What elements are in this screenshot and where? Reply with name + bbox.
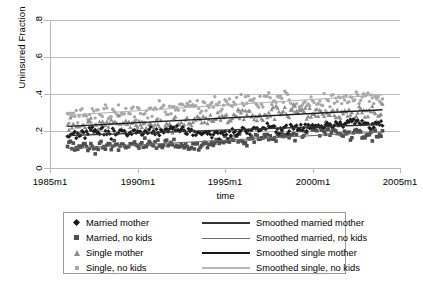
legend-label: Married, no kids [86,231,152,245]
diamond-marker-icon [70,216,86,230]
legend-line-label: Smoothed single, no kids [256,261,360,275]
chart-figure: Uninsured Fraction .8 .6 .4 .2 0 1985m1 … [0,0,423,293]
legend-label: Single mother [86,246,143,260]
legend-row-single-no-kids: Single, no kids Smoothed single, no kids [64,261,347,275]
x-tick-mark [138,168,139,173]
plot-area [50,20,400,168]
x-axis-title: time [50,190,401,201]
scatter-and-trend-layer [50,20,400,168]
triangle-marker-icon [70,246,86,260]
x-tick-label-2000: 2000m1 [281,176,345,187]
legend-label: Married mother [86,216,149,230]
legend-line-swatch [202,267,250,269]
dot-marker-icon [70,261,86,275]
legend-line-swatch [202,238,250,239]
x-tick-mark [400,168,401,173]
legend-row-married-no-kids: Married, no kids Smoothed married, no ki… [64,231,347,245]
legend-line-swatch [202,252,250,254]
y-axis-title: Uninsured Fraction [16,0,27,113]
legend-line-label: Smoothed married mother [256,216,364,230]
x-tick-mark [50,168,51,173]
legend-line-label: Smoothed married, no kids [256,231,367,245]
x-tick-mark [313,168,314,173]
square-marker-icon [70,231,86,245]
x-tick-label-1990: 1990m1 [106,176,170,187]
legend-row-married-mother: Married mother Smoothed married mother [64,216,347,230]
chart-legend: Married mother Smoothed married mother M… [63,212,346,274]
legend-label: Single, no kids [86,261,146,275]
legend-line-label: Smoothed single mother [256,246,357,260]
legend-row-single-mother: Single mother Smoothed single mother [64,246,347,260]
x-tick-label-1995: 1995m1 [193,176,257,187]
x-tick-mark [225,168,226,173]
legend-line-swatch [202,222,250,224]
x-tick-label-2005: 2005m1 [368,176,423,187]
x-tick-label-1985: 1985m1 [18,176,82,187]
